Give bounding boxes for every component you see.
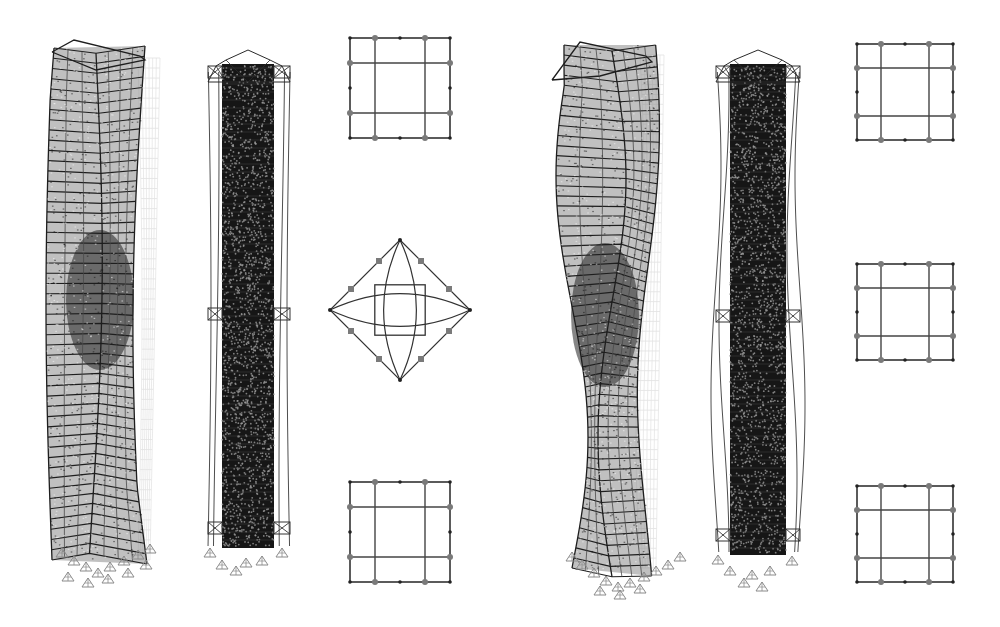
- floor-plan-square-bottom: [854, 483, 956, 585]
- structural-model-figure: [0, 0, 1000, 627]
- floor-plan-square-middle: [854, 261, 956, 363]
- floor-plan-square-top: [854, 41, 956, 143]
- right-panel: [0, 0, 1000, 627]
- right-floor-plans: [0, 0, 1000, 627]
